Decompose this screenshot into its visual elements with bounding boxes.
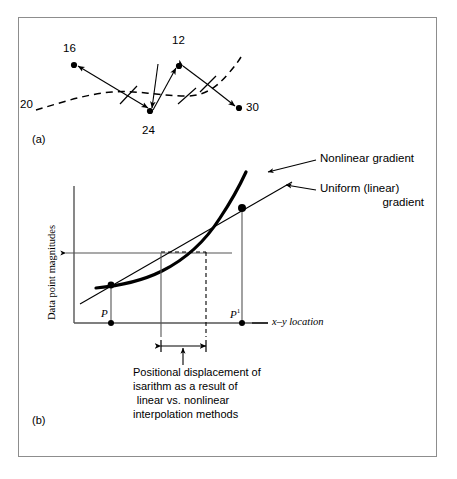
data-label-12: 12	[172, 34, 185, 48]
arrow-20-to-16	[78, 66, 128, 96]
data-label-16: 16	[63, 42, 76, 56]
data-point-30	[236, 105, 242, 111]
annotation-uniform-gradient-line2: gradient	[320, 196, 424, 210]
data-label-24: 24	[142, 124, 155, 138]
arrow-crossing-to-30	[207, 84, 235, 106]
arrow-12-to-crossing	[183, 66, 207, 84]
y-axis-label: Data point magnitudes	[46, 225, 57, 320]
nonlinear-annotation-leader	[268, 160, 316, 172]
panel-a-graphic	[36, 57, 242, 114]
annotation-nonlinear-gradient: Nonlinear gradient	[320, 152, 414, 166]
figure-root: 16 20 24 12 30 (a) Data point magnitudes…	[0, 0, 457, 479]
data-label-30: 30	[246, 101, 259, 115]
nonlinear-gradient-curve	[96, 172, 246, 288]
caption-line-1: Positional displacement of	[133, 366, 233, 379]
point-label-P1: P1	[230, 307, 240, 321]
data-point-16	[71, 62, 77, 68]
panel-b-label: (b)	[32, 414, 45, 427]
x-axis-label: x–y location	[272, 316, 324, 328]
caption-line-2: isarithm as a result of	[133, 380, 233, 393]
panel-a-label: (a)	[32, 133, 45, 146]
point-label-P1-text: P	[230, 308, 237, 320]
marker-axis-dot-P1	[239, 320, 245, 326]
panel-b-graphic	[66, 160, 316, 365]
arrow-16-to-24	[128, 96, 148, 108]
uniform-annotation-leader	[286, 185, 316, 190]
annotation-uniform-gradient-line1: Uniform (linear)	[320, 182, 399, 196]
data-label-20: 20	[20, 98, 33, 112]
data-point-12	[176, 63, 182, 69]
isarithm-tick-1	[120, 86, 137, 104]
caption-line-3: linear vs. nonlinear	[133, 394, 233, 407]
marker-point-P1	[238, 204, 246, 212]
caption-line-4: interpolation methods	[133, 408, 233, 421]
data-point-24	[147, 108, 153, 114]
marker-axis-dot-P	[108, 320, 114, 326]
point-label-P: P	[101, 307, 108, 320]
point-label-P1-sup: 1	[237, 307, 241, 315]
marker-point-P	[108, 282, 115, 289]
